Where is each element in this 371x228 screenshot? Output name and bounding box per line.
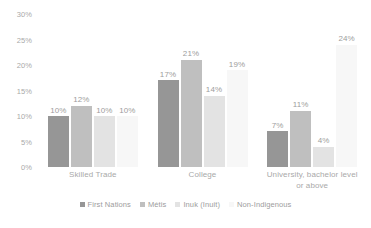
category-label: Skilled Trade (38, 170, 148, 191)
bar-value-label: 17% (160, 70, 176, 79)
legend-swatch-icon (80, 202, 85, 207)
bar-slot: 10% (117, 14, 138, 167)
bar-slot: 17% (158, 14, 179, 167)
legend-swatch-icon (140, 202, 145, 207)
bar[interactable]: 24% (336, 45, 357, 167)
bar[interactable]: 17% (158, 80, 179, 167)
bar[interactable]: 10% (117, 116, 138, 167)
y-axis-tick: 15% (17, 86, 32, 95)
bar-value-label: 7% (272, 121, 284, 130)
chart-legend: First NationsMétisInuk (Inuit)Non-Indige… (0, 200, 371, 209)
bar[interactable]: 10% (94, 116, 115, 167)
bar-slot: 10% (94, 14, 115, 167)
category-axis: Skilled TradeCollegeUniversity, bachelor… (38, 170, 367, 191)
bar-value-label: 21% (183, 49, 199, 58)
bar-slot: 11% (290, 14, 311, 167)
category-label: University, bachelor levelor above (257, 170, 367, 191)
bar[interactable]: 11% (290, 111, 311, 167)
legend-swatch-icon (175, 202, 180, 207)
bar-value-label: 10% (50, 106, 66, 115)
bar-value-label: 19% (229, 60, 245, 69)
legend-label: Inuk (Inuit) (183, 200, 220, 209)
legend-label: Non-Indigenous (237, 200, 291, 209)
bar-slot: 19% (227, 14, 248, 167)
legend-item[interactable]: Non-Indigenous (229, 200, 291, 209)
bar[interactable]: 12% (71, 106, 92, 167)
bar[interactable]: 21% (181, 60, 202, 167)
bar-value-label: 4% (318, 136, 330, 145)
bar-groups: 10%12%10%10%17%21%14%19%7%11%4%24% (38, 14, 367, 167)
y-axis-tick: 10% (17, 112, 32, 121)
y-axis-tick: 0% (21, 163, 32, 172)
bar[interactable]: 4% (313, 147, 334, 167)
category-label-line: College (150, 170, 256, 181)
bar-value-label: 12% (73, 95, 89, 104)
bar[interactable]: 10% (48, 116, 69, 167)
bar-value-label: 10% (119, 106, 135, 115)
y-axis: 0%5%10%15%20%25%30% (0, 0, 36, 172)
y-axis-tick: 5% (21, 137, 32, 146)
bar[interactable]: 14% (204, 96, 225, 167)
legend-label: Métis (148, 200, 166, 209)
bar-slot: 4% (313, 14, 334, 167)
category-label-line: or above (259, 181, 365, 192)
y-axis-tick: 30% (17, 10, 32, 19)
bar[interactable]: 7% (267, 131, 288, 167)
bar[interactable]: 19% (227, 70, 248, 167)
category-label-line: University, bachelor level (259, 170, 365, 181)
bar-value-label: 14% (206, 85, 222, 94)
category-label-line: Skilled Trade (40, 170, 146, 181)
bar-value-label: 24% (339, 34, 355, 43)
bar-value-label: 11% (293, 100, 309, 109)
legend-item[interactable]: First Nations (80, 200, 131, 209)
bar-group: 10%12%10%10% (38, 14, 148, 167)
y-axis-tick: 20% (17, 61, 32, 70)
category-label: College (148, 170, 258, 191)
legend-swatch-icon (229, 202, 234, 207)
grouped-bar-chart: 0%5%10%15%20%25%30% 10%12%10%10%17%21%14… (0, 0, 371, 228)
bar-value-label: 10% (96, 106, 112, 115)
bar-slot: 7% (267, 14, 288, 167)
bar-slot: 24% (336, 14, 357, 167)
bar-slot: 10% (48, 14, 69, 167)
bar-group: 7%11%4%24% (257, 14, 367, 167)
legend-item[interactable]: Inuk (Inuit) (175, 200, 220, 209)
bar-group: 17%21%14%19% (148, 14, 258, 167)
legend-item[interactable]: Métis (140, 200, 166, 209)
legend-label: First Nations (88, 200, 131, 209)
bar-slot: 21% (181, 14, 202, 167)
bar-slot: 12% (71, 14, 92, 167)
plot-area: 10%12%10%10%17%21%14%19%7%11%4%24% (38, 14, 367, 167)
bar-slot: 14% (204, 14, 225, 167)
y-axis-tick: 25% (17, 35, 32, 44)
